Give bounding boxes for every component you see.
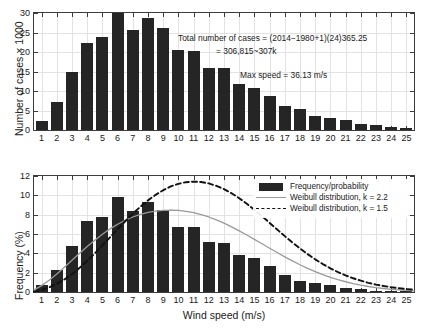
x-axis-tick-label: 7 [130, 295, 135, 305]
x-axis-tick-label: 17 [280, 133, 290, 143]
y-axis-tick-label: 0 [4, 125, 30, 135]
solid-line-icon [256, 192, 286, 203]
x-axis-tick-label: 13 [219, 133, 229, 143]
bar [309, 116, 321, 130]
x-axis-tick-label: 9 [161, 295, 166, 305]
x-axis-tick-label: 5 [100, 133, 105, 143]
y-axis-tick-label: 30 [4, 8, 30, 18]
dashed-line-icon [256, 203, 286, 214]
x-axis-tick [254, 13, 255, 17]
top-annotation-line-2: = 306,815~307k [216, 46, 277, 56]
legend-label-weibull-22: Weibull distribution, k = 2.2 [290, 193, 388, 202]
y-axis-tick [34, 13, 38, 14]
x-axis-tick [102, 13, 103, 17]
y-axis-tick [34, 33, 38, 34]
x-axis-tick [72, 13, 73, 17]
y-axis-tick [410, 130, 414, 131]
y-axis-tick [410, 13, 414, 14]
bottom-panel: Frequency (%) 02468101212345678910111213… [0, 170, 426, 334]
x-axis-tick [209, 13, 210, 17]
bar [385, 127, 397, 130]
bar [172, 50, 184, 130]
bar [96, 37, 108, 130]
x-axis-tick [361, 13, 362, 17]
y-axis-tick [410, 91, 414, 92]
y-axis-tick [410, 52, 414, 53]
y-axis-tick [410, 72, 414, 73]
y-axis-tick [34, 130, 38, 131]
x-axis-tick-label: 23 [371, 295, 381, 305]
x-axis-tick [406, 13, 407, 17]
y-axis-tick-label: 15 [4, 67, 30, 77]
x-axis-tick-label: 6 [115, 295, 120, 305]
legend-label-weibull-15: Weibull distribution, k = 1.5 [290, 204, 388, 213]
y-axis-tick [34, 72, 38, 73]
x-axis-tick-label: 16 [265, 133, 275, 143]
x-axis-tick [270, 13, 271, 17]
x-axis-tick-label: 1 [39, 133, 44, 143]
legend-label-frequency: Frequency/probability [290, 182, 368, 191]
top-panel: Number of cases × 1000 05101520253012345… [0, 0, 426, 160]
x-axis-tick [285, 13, 286, 17]
gridline-vertical [406, 13, 407, 130]
gridline-vertical [42, 13, 43, 130]
x-axis-tick [57, 13, 58, 17]
bar [203, 68, 215, 130]
y-axis-tick-label: 6 [4, 229, 30, 239]
series-line [34, 210, 414, 291]
figure-root: Number of cases × 1000 05101520253012345… [0, 0, 426, 334]
x-axis-tick-label: 14 [234, 133, 244, 143]
bar-swatch-icon [256, 181, 286, 192]
x-axis-tick [178, 13, 179, 17]
gridline-vertical [391, 13, 392, 130]
legend: Frequency/probability Weibull distributi… [253, 179, 408, 218]
bar [127, 30, 139, 130]
top-y-axis-title: Number of cases × 1000 [13, 21, 25, 136]
bar [36, 121, 48, 130]
x-axis-tick-label: 12 [204, 295, 214, 305]
x-axis-tick-label: 2 [54, 133, 59, 143]
bar [142, 18, 154, 130]
bar [66, 72, 78, 130]
bar [324, 118, 336, 130]
x-axis-tick-label: 23 [371, 133, 381, 143]
x-axis-tick-label: 14 [234, 295, 244, 305]
x-axis-tick [42, 13, 43, 17]
x-axis-tick-label: 18 [295, 295, 305, 305]
y-axis-tick [410, 33, 414, 34]
bar [294, 109, 306, 130]
x-axis-tick [148, 13, 149, 17]
y-axis-tick [34, 52, 38, 53]
legend-item-weibull-22: Weibull distribution, k = 2.2 [256, 192, 404, 203]
bar [81, 43, 93, 130]
x-axis-tick-label: 22 [356, 295, 366, 305]
x-axis-tick-label: 15 [249, 295, 259, 305]
x-axis-tick-label: 7 [130, 133, 135, 143]
x-axis-tick-label: 8 [145, 295, 150, 305]
y-axis-tick [34, 91, 38, 92]
x-axis-tick-label: 3 [69, 133, 74, 143]
bar [51, 102, 63, 130]
y-axis-tick-label: 0 [4, 287, 30, 297]
bar [188, 51, 200, 130]
gridline-vertical [376, 13, 377, 130]
bar [370, 125, 382, 130]
legend-item-frequency: Frequency/probability [256, 181, 404, 192]
x-axis-tick [224, 13, 225, 17]
bar [218, 68, 230, 130]
x-axis-tick-label: 12 [204, 133, 214, 143]
x-axis-tick-label: 10 [173, 133, 183, 143]
y-axis-tick-label: 20 [4, 47, 30, 57]
bar [248, 88, 260, 130]
x-axis-tick-label: 24 [386, 295, 396, 305]
x-axis-tick-label: 9 [161, 133, 166, 143]
x-axis-tick-label: 21 [341, 133, 351, 143]
x-axis-tick-label: 21 [341, 295, 351, 305]
x-axis-tick-label: 19 [310, 133, 320, 143]
y-axis-tick [34, 111, 38, 112]
gridline-vertical [346, 13, 347, 130]
x-axis-tick [133, 13, 134, 17]
top-annotation-line-3: Max speed = 36.13 m/s [240, 70, 327, 80]
bar [112, 13, 124, 130]
bottom-x-axis-title: Wind speed (m/s) [33, 309, 415, 321]
